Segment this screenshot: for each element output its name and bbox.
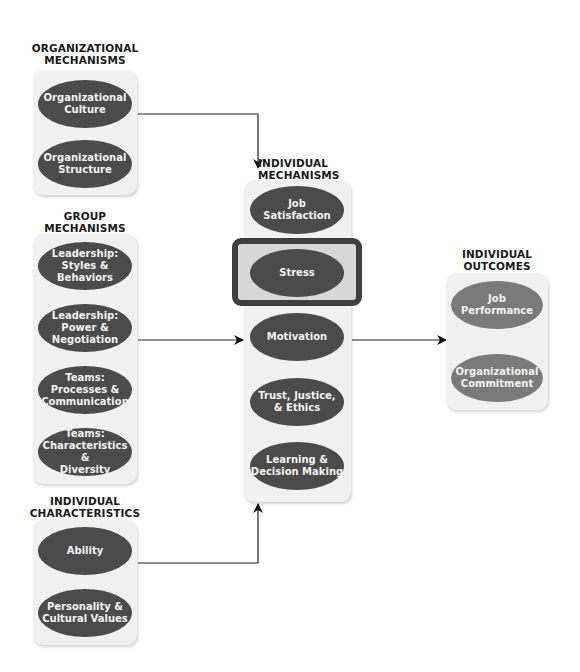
individual-mechanisms-title: INDIVIDUAL MECHANISMS [258,157,368,181]
node-teams-characteristics-diversity[interactable]: Teams: Characteristics & Diversity [38,428,132,476]
arrow-characteristics-to-individual [138,504,258,563]
node-learning-decision-making[interactable]: Learning & Decision Making [250,442,344,490]
node-job-satisfaction[interactable]: Job Satisfaction [250,186,344,234]
individual-outcomes-title: INDIVIDUAL OUTCOMES [444,248,550,272]
node-job-performance[interactable]: Job Performance [451,281,543,329]
individual-characteristics-title: INDIVIDUAL CHARACTERISTICS [28,495,142,519]
node-personality-cultural-values[interactable]: Personality & Cultural Values [38,589,132,637]
group-mechanisms-title: GROUP MECHANISMS [30,210,140,234]
node-organizational-structure[interactable]: Organizational Structure [38,140,132,188]
node-leadership-styles-behaviors[interactable]: Leadership: Styles & Behaviors [38,242,132,290]
node-ability[interactable]: Ability [38,527,132,575]
node-stress[interactable]: Stress [250,249,344,297]
node-organizational-commitment[interactable]: Organizational Commitment [451,354,543,402]
node-motivation[interactable]: Motivation [250,313,344,361]
node-leadership-power-negotiation[interactable]: Leadership: Power & Negotiation [38,304,132,352]
node-teams-processes-communication[interactable]: Teams: Processes & Communication [38,366,132,414]
node-trust-justice-ethics[interactable]: Trust, Justice, & Ethics [250,378,344,426]
arrow-org-to-individual [138,114,258,168]
organizational-mechanisms-title: ORGANIZATIONAL MECHANISMS [30,42,140,66]
node-organizational-culture[interactable]: Organizational Culture [38,80,132,128]
